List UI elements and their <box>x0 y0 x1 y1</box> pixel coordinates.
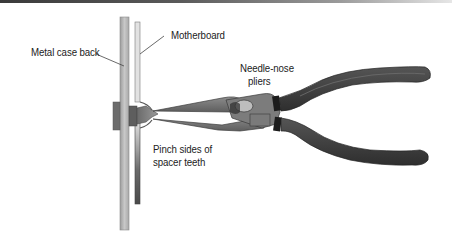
spacer-base-plate <box>113 102 120 130</box>
lower-handle <box>281 118 428 165</box>
label-pliers-line1: Needle-nose <box>240 62 294 75</box>
metal-case-back <box>120 17 129 230</box>
spacer-removal-diagram: Metal case back Motherboard Needle-nose … <box>0 0 452 245</box>
diagram-illustration <box>0 0 452 245</box>
plastic-spacer <box>129 102 158 128</box>
label-pliers-line2: pliers <box>248 75 271 88</box>
label-pinch-line2: spacer teeth <box>153 156 205 169</box>
leader-motherboard <box>140 36 164 54</box>
label-metal-case-back: Metal case back <box>31 46 100 59</box>
label-pinch-line1: Pinch sides of <box>153 143 212 156</box>
label-motherboard: Motherboard <box>171 29 225 42</box>
